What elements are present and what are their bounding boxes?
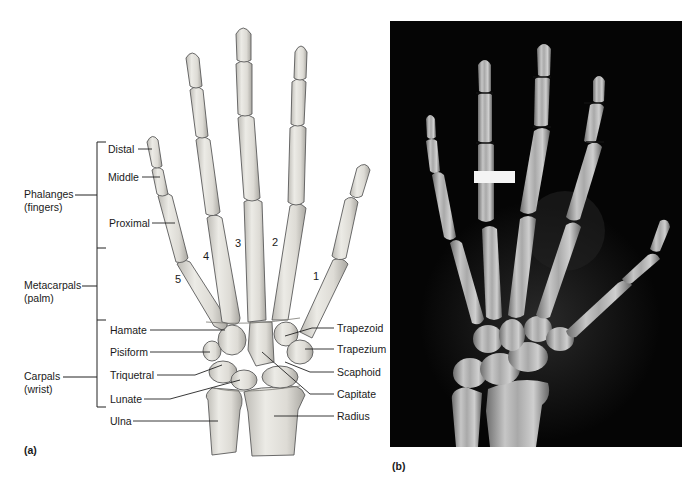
group-sub: (fingers): [24, 201, 74, 214]
digit-number-4: 4: [203, 250, 209, 262]
label-distal: Distal: [108, 143, 134, 155]
lunate-bone: [231, 370, 257, 390]
panel-label-a: (a): [24, 444, 37, 456]
proximal-phalanx-5: [158, 193, 188, 263]
distal-phalanx-4: [186, 53, 202, 88]
group-label-phalanges: Phalanges (fingers): [24, 188, 74, 214]
group-sub: (wrist): [24, 383, 60, 396]
digit-number-3: 3: [235, 237, 241, 249]
panel-b-xray-image: [390, 21, 682, 447]
proximal-phalanx-3: [238, 115, 260, 201]
label-scaphoid: Scaphoid: [337, 366, 381, 378]
xray-ulna: [452, 387, 482, 447]
proximal-phalanx-2: [288, 125, 306, 205]
grouping-bracket: [63, 142, 106, 407]
radius-bone: [244, 386, 305, 456]
middle-phalanx-2: [291, 79, 306, 126]
label-ulna: Ulna: [110, 415, 132, 427]
middle-phalanx-4: [190, 87, 208, 138]
label-lunate: Lunate: [110, 393, 142, 405]
group-name: Phalanges: [24, 188, 74, 201]
metacarpal-2: [272, 203, 306, 320]
distal-phalanx-5: [147, 136, 162, 168]
label-capitate: Capitate: [337, 388, 376, 400]
metacarpal-3: [244, 199, 266, 322]
group-label-carpals: Carpals (wrist): [24, 370, 60, 396]
label-trapezoid: Trapezoid: [337, 322, 383, 334]
middle-phalanx-5: [152, 168, 168, 197]
panel-label-b: (b): [392, 460, 405, 472]
digit-number-5: 5: [175, 273, 181, 285]
group-name: Metacarpals: [24, 279, 81, 292]
label-pisiform: Pisiform: [110, 346, 148, 358]
group-sub: (palm): [24, 292, 81, 305]
digit-number-1: 1: [313, 270, 319, 282]
proximal-phalanx-4: [196, 137, 220, 216]
label-proximal: Proximal: [109, 217, 150, 229]
proximal-phalanx-1: [332, 197, 358, 259]
group-label-metacarpals: Metacarpals (palm): [24, 279, 81, 305]
label-trapezium: Trapezium: [337, 343, 386, 355]
distal-phalanx-2: [294, 46, 307, 80]
redaction-bar: [474, 171, 515, 183]
distal-phalanx-1: [350, 164, 370, 197]
label-hamate: Hamate: [110, 324, 147, 336]
xray-bones: [390, 21, 682, 447]
scaphoid-bone: [262, 366, 298, 388]
label-middle: Middle: [108, 171, 139, 183]
label-radius: Radius: [337, 410, 370, 422]
label-triquetral: Triquetral: [110, 369, 154, 381]
trapezium-bone: [287, 340, 313, 364]
ulna-bone: [206, 388, 242, 455]
middle-phalanx-3: [236, 61, 252, 116]
digit-number-2: 2: [272, 236, 278, 248]
distal-phalanx-3: [236, 28, 251, 62]
group-name: Carpals: [24, 370, 60, 383]
